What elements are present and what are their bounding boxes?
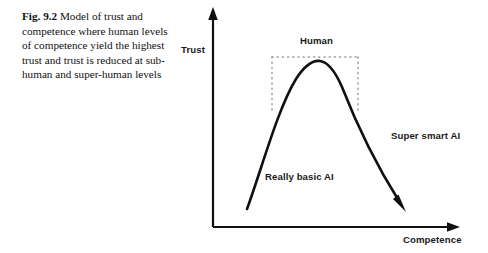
trust-curve-path [247,61,399,209]
x-axis-label: Competence [403,234,462,245]
y-axis-label: Trust [181,44,205,55]
annotation-really-basic-ai: Really basic AI [265,171,334,182]
arrow-right-icon [447,222,460,232]
figure-container: Fig. 9.2 Model of trust and competence w… [0,0,488,253]
arrow-down-right-icon [393,195,406,213]
annotation-human: Human [300,35,333,46]
arrow-up-icon [208,7,218,20]
trust-curve [247,61,406,212]
x-axis [213,222,460,232]
annotation-super-smart-ai: Super smart AI [391,130,460,141]
y-axis [208,7,218,227]
trust-competence-diagram [0,0,488,253]
